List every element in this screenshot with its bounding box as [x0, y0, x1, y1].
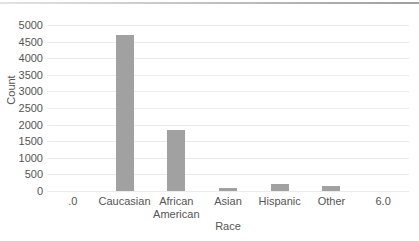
x-category-label-asian: Asian: [199, 195, 257, 208]
x-category-label-6-0: 6.0: [354, 195, 412, 208]
y-tick-label-500: 500: [11, 169, 43, 180]
y-tick-label-4000: 4000: [11, 53, 43, 64]
gridline-500: [47, 174, 409, 175]
gridline-2000: [47, 125, 409, 126]
bar-hispanic: [271, 184, 289, 191]
bar-asian: [219, 188, 237, 191]
gridline-4000: [47, 58, 409, 59]
x-category-label-hispanic: Hispanic: [251, 195, 309, 208]
chart-window: 0500100015002000250030003500400045005000…: [0, 0, 419, 241]
window-top-border: [0, 2, 419, 4]
x-category-label-african-american: African American: [147, 195, 205, 221]
y-tick-label-0: 0: [11, 186, 43, 197]
x-category-label-other: Other: [302, 195, 360, 208]
bar-caucasian: [116, 35, 134, 191]
y-tick-label-1500: 1500: [11, 136, 43, 147]
x-category-label-0: .0: [44, 195, 102, 208]
bar-african-american: [167, 130, 185, 191]
y-tick-label-1000: 1000: [11, 153, 43, 164]
y-tick-label-2000: 2000: [11, 120, 43, 131]
gridline-4500: [47, 42, 409, 43]
gridline-5000: [47, 25, 409, 26]
gridline-2500: [47, 108, 409, 109]
gridline-1500: [47, 141, 409, 142]
y-tick-label-5000: 5000: [11, 20, 43, 31]
gridline-1000: [47, 158, 409, 159]
x-axis-title: Race: [215, 220, 241, 232]
y-tick-label-4500: 4500: [11, 37, 43, 48]
x-category-label-caucasian: Caucasian: [96, 195, 154, 208]
y-axis-title: Count: [5, 75, 17, 104]
gridline-3500: [47, 75, 409, 76]
gridline-0: [47, 191, 409, 192]
bar-other: [322, 186, 340, 191]
gridline-3000: [47, 91, 409, 92]
